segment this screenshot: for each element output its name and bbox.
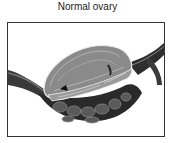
illustration-frame bbox=[7, 22, 165, 137]
ovary-illustration bbox=[8, 23, 165, 137]
figure-title: Normal ovary bbox=[0, 1, 175, 12]
